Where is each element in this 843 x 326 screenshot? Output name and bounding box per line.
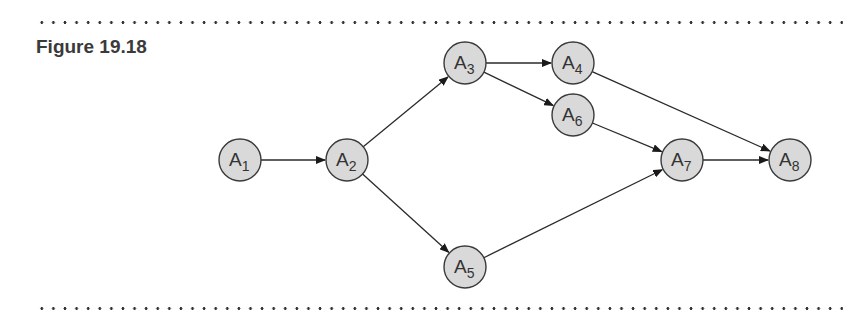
edge-a3-a6 [484,72,553,105]
edge-a2-a3 [363,77,448,147]
nodes: A1A2A3A4A5A6A7A8 [219,42,811,288]
node-a6: A6 [552,94,594,136]
edge-a5-a7 [484,170,662,258]
node-a2: A2 [326,139,368,181]
node-a4: A4 [552,42,594,84]
node-a7: A7 [661,139,703,181]
node-a3: A3 [444,42,486,84]
node-a1: A1 [219,139,261,181]
node-a8: A8 [769,139,811,181]
edge-a2-a5 [363,174,449,252]
node-a5: A5 [444,246,486,288]
edge-a6-a7 [592,123,661,152]
precedence-graph: A1A2A3A4A5A6A7A8 [0,0,843,326]
